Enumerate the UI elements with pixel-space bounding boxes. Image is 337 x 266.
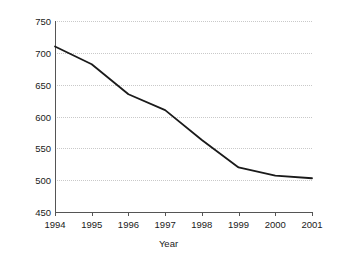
x-axis-tick-label: 2000	[265, 219, 286, 230]
y-axis-tick-label: 700	[35, 47, 51, 58]
x-axis-tick-label: 1996	[118, 219, 139, 230]
y-axis-tick-label: 450	[35, 207, 51, 218]
x-axis-line	[55, 212, 312, 213]
x-axis-tick	[239, 212, 240, 216]
x-axis-title: Year	[0, 238, 337, 249]
x-axis-tick	[128, 212, 129, 216]
x-axis-tick-label: 1999	[228, 219, 249, 230]
x-axis-tick	[55, 212, 56, 216]
y-axis-tick-label: 600	[35, 111, 51, 122]
x-axis-tick	[92, 212, 93, 216]
series-polyline	[55, 46, 312, 178]
data-series-line	[55, 21, 312, 212]
x-axis-tick	[275, 212, 276, 216]
y-axis-tick-label: 650	[35, 79, 51, 90]
x-axis-tick-label: 1997	[155, 219, 176, 230]
plot-area: 450500550600650700750 199419951996199719…	[55, 21, 312, 212]
x-axis-tick	[202, 212, 203, 216]
x-axis-tick-label: 1995	[81, 219, 102, 230]
y-axis-tick-label: 500	[35, 175, 51, 186]
x-axis-tick	[165, 212, 166, 216]
line-chart: Victims per 1,000 Population 45050055060…	[0, 0, 337, 266]
y-axis-tick-label: 750	[35, 16, 51, 27]
x-axis-tick	[312, 212, 313, 216]
x-axis-tick-label: 2001	[301, 219, 322, 230]
x-axis-tick-label: 1994	[44, 219, 65, 230]
y-axis-tick-label: 550	[35, 143, 51, 154]
x-axis-tick-label: 1998	[191, 219, 212, 230]
